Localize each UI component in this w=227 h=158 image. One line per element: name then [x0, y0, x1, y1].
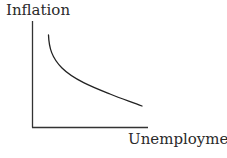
x-axis-label: Unemployment: [128, 132, 227, 147]
phillips-curve-chart: Inflation Unemployment: [0, 0, 227, 158]
phillips-curve-line: [49, 35, 143, 106]
